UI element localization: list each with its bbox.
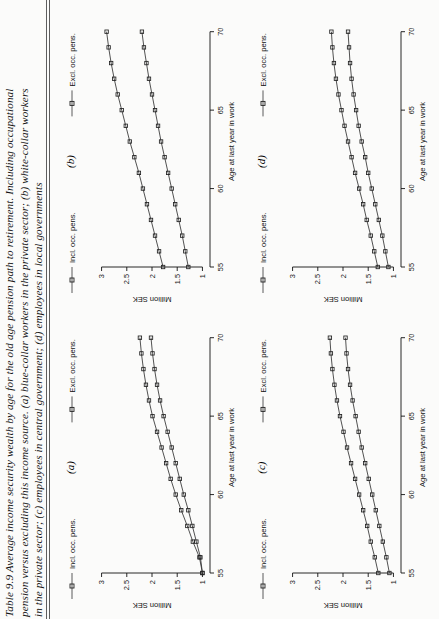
page-gutter-rule-outer (46, 0, 47, 619)
y-tick-label: 1.5 (173, 275, 182, 285)
x-tick-label: 55 (407, 569, 416, 577)
chart-svg-d: (d)Incl. occ. pens.Excl. occ. pens.11.52… (245, 5, 435, 310)
x-axis-label: Age at last year in work (227, 102, 236, 181)
series-line (348, 32, 388, 267)
y-tick-label: 3 (97, 275, 106, 279)
legend-label: Excl. occ. pens. (68, 339, 77, 392)
x-axis-label: Age at last year in work (418, 102, 427, 181)
y-tick-label: 2 (338, 275, 347, 279)
x-tick-label: 65 (407, 412, 416, 420)
series-line (140, 338, 203, 573)
y-tick-label: 2.5 (313, 275, 322, 285)
legend-label: Incl. occ. pens. (68, 518, 77, 569)
series-line (142, 32, 188, 267)
y-tick-label: 2.5 (122, 580, 131, 590)
series-line (107, 32, 163, 267)
chart-svg-c: (c)Incl. occ. pens.Excl. occ. pens.11.52… (245, 310, 435, 615)
y-tick-label: 1.5 (363, 275, 372, 285)
y-tick-label: 1.5 (363, 580, 372, 590)
chart-svg-b: (b)Incl. occ. pens.Excl. occ. pens.11.52… (54, 5, 244, 310)
caption-line-3: in the private sector; (c) employees in … (31, 2, 46, 617)
y-tick-label: 1.5 (173, 580, 182, 590)
series-line (345, 338, 389, 573)
y-tick-label: 1 (389, 275, 398, 279)
y-axis-label: Million SEK (323, 296, 362, 305)
figure-caption: Table 9.9 Average income security wealth… (2, 2, 46, 617)
x-tick-label: 70 (216, 28, 225, 36)
y-tick-label: 2.5 (313, 580, 322, 590)
x-tick-label: 65 (407, 107, 416, 115)
x-axis-label: Age at last year in work (227, 408, 236, 487)
y-axis-label: Million SEK (323, 601, 362, 610)
x-tick-label: 55 (407, 263, 416, 271)
chart-svg-a: (a)Incl. occ. pens.Excl. occ. pens.11.52… (54, 310, 244, 615)
x-tick-label: 60 (216, 490, 225, 498)
book-page: Table 9.9 Average income security wealth… (0, 0, 439, 619)
x-tick-label: 60 (216, 185, 225, 193)
x-tick-label: 70 (407, 334, 416, 342)
panel-title: (b) (64, 155, 77, 168)
x-tick-label: 55 (216, 263, 225, 271)
figure-plot-area: (a)Incl. occ. pens.Excl. occ. pens.11.52… (54, 4, 435, 615)
chart-panel-c: (c)Incl. occ. pens.Excl. occ. pens.11.52… (245, 310, 436, 616)
y-tick-label: 2 (148, 275, 157, 279)
legend-label: Excl. occ. pens. (259, 34, 268, 87)
x-tick-label: 70 (407, 28, 416, 36)
panel-title: (d) (255, 155, 268, 168)
y-tick-label: 3 (97, 580, 106, 584)
x-tick-label: 60 (407, 490, 416, 498)
chart-panel-a: (a)Incl. occ. pens.Excl. occ. pens.11.52… (54, 310, 245, 616)
caption-line-2: pension versus excluding this income sou… (17, 2, 32, 617)
page-gutter-rule-inner (49, 0, 50, 619)
y-tick-label: 2.5 (122, 275, 131, 285)
x-axis-label: Age at last year in work (418, 408, 427, 487)
legend-label: Incl. occ. pens. (68, 213, 77, 264)
x-tick-label: 55 (216, 569, 225, 577)
x-tick-label: 65 (216, 412, 225, 420)
y-tick-label: 2 (338, 580, 347, 584)
y-tick-label: 1 (198, 580, 207, 584)
y-axis-label: Million SEK (133, 601, 172, 610)
x-tick-label: 70 (216, 334, 225, 342)
series-line (151, 338, 202, 573)
legend-label: Incl. occ. pens. (259, 213, 268, 264)
chart-panel-d: (d)Incl. occ. pens.Excl. occ. pens.11.52… (245, 4, 436, 310)
y-tick-label: 3 (288, 580, 297, 584)
caption-line-1: Table 9.9 Average income security wealth… (2, 2, 17, 617)
y-axis-label: Million SEK (133, 296, 172, 305)
panel-title: (c) (255, 461, 268, 474)
panel-title: (a) (64, 461, 77, 474)
y-tick-label: 3 (288, 275, 297, 279)
y-tick-label: 2 (148, 580, 157, 584)
x-tick-label: 65 (216, 107, 225, 115)
y-tick-label: 1 (389, 580, 398, 584)
legend-label: Incl. occ. pens. (259, 518, 268, 569)
x-tick-label: 60 (407, 185, 416, 193)
legend-label: Excl. occ. pens. (68, 34, 77, 87)
series-line (331, 32, 377, 267)
series-line (329, 338, 377, 573)
y-tick-label: 1 (198, 275, 207, 279)
legend-label: Excl. occ. pens. (259, 339, 268, 392)
chart-panel-b: (b)Incl. occ. pens.Excl. occ. pens.11.52… (54, 4, 245, 310)
